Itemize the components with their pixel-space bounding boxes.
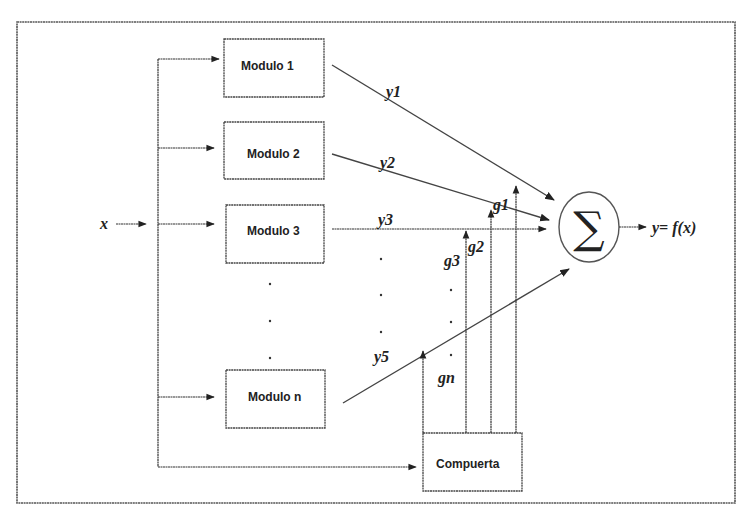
input-label: x [99,215,108,232]
label-y2: y2 [378,154,395,172]
output-ellipsis [380,258,382,333]
label-y3: y3 [376,211,393,229]
modulo-1-label: Modulo 1 [241,59,294,73]
compuerta-label: Compuerta [436,457,500,471]
modulo-3-label: Modulo 3 [247,224,300,238]
label-gn: gn [437,369,455,387]
modulo-2-label: Modulo 2 [247,147,300,161]
gate-ellipsis [450,289,452,356]
modulo-n-box: Modulo n [226,370,325,428]
modulo-3-box: Modulo 3 [226,205,324,263]
output-line-y1 [332,65,554,200]
compuerta-box: Compuerta [423,433,522,491]
label-y5: y5 [372,348,389,366]
label-y1: y1 [384,83,401,101]
outer-frame [17,22,735,503]
modulo-1-box: Modulo 1 [224,39,324,97]
modulo-n-label: Modulo n [248,390,301,404]
summation-node: ∑ [559,192,619,262]
output-label: y= f(x) [650,219,696,237]
output-line-y5 [343,269,569,403]
label-g1: g1 [492,196,509,214]
modulo-2-box: Modulo 2 [224,122,324,179]
module-ellipsis [269,283,271,359]
label-g3: g3 [443,252,460,270]
label-g2: g2 [467,238,484,256]
sigma-icon: ∑ [573,202,604,253]
modular-network-diagram: x Modulo 1 Modulo 2 Modulo 3 Modulo n [0,0,751,513]
